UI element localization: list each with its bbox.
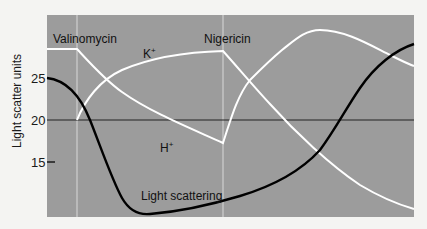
y-axis-label: Light scatter units — [10, 54, 24, 148]
nigericin-label: Nigericin — [204, 32, 251, 46]
h-plus-superscript: + — [169, 140, 174, 149]
light-scattering-label: Light scattering — [141, 189, 222, 203]
y-tick-label-15: 15 — [31, 155, 45, 170]
k-label-text: K — [143, 47, 151, 61]
h-label-text: H — [160, 141, 169, 155]
y-tick-label-25: 25 — [31, 71, 45, 86]
chart: 25 20 15 Light scatter units Valinomycin… — [0, 0, 427, 229]
k-plus-superscript: + — [151, 46, 156, 55]
valinomycin-label: Valinomycin — [53, 32, 117, 46]
y-tick-label-20: 20 — [31, 113, 45, 128]
